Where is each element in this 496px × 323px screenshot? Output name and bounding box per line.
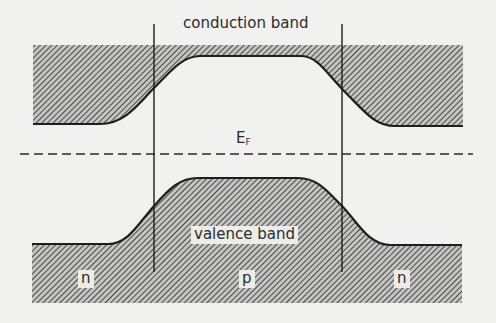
- conduction-band-label: conduction band: [183, 16, 308, 31]
- conduction-band-region: [33, 45, 463, 126]
- region-label-p: p: [239, 270, 255, 288]
- region-label-n-left: n: [78, 270, 94, 288]
- valence-band-label: valence band: [191, 226, 298, 244]
- region-label-n-right: n: [394, 270, 410, 288]
- fermi-level-subscript: F: [245, 137, 250, 147]
- fermi-level-label: EF: [236, 131, 251, 147]
